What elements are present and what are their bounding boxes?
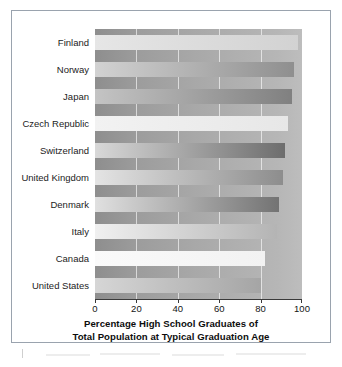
category-axis-labels: FinlandNorwayJapanCzech RepublicSwitzerl… (11, 29, 93, 299)
bar (95, 35, 298, 50)
bar (95, 251, 265, 266)
bar (95, 89, 292, 104)
scan-artifacts (0, 349, 342, 367)
bar (95, 197, 279, 212)
bar-row (95, 218, 302, 245)
tick-label-40: 40 (173, 303, 184, 314)
bar-chart-figure: FinlandNorwayJapanCzech RepublicSwitzerl… (0, 0, 342, 367)
scan-smudge (172, 354, 224, 356)
x-axis-title: Percentage High School Graduates ofTotal… (11, 318, 331, 343)
tick-label-60: 60 (214, 303, 225, 314)
category-label: Italy (72, 218, 89, 245)
scan-smudge (46, 354, 90, 356)
x-axis-title-line: Percentage High School Graduates of (11, 318, 331, 331)
bar (95, 170, 283, 185)
bar-row (95, 83, 302, 110)
category-label: Finland (58, 29, 89, 56)
category-label: United Kingdom (21, 164, 89, 191)
scan-smudge (236, 353, 306, 355)
category-label: Czech Republic (22, 110, 89, 137)
scan-tick (22, 349, 23, 358)
category-label: Denmark (50, 191, 89, 218)
bar-row (95, 164, 302, 191)
tick-label-0: 0 (92, 303, 97, 314)
x-axis-title-line: Total Population at Typical Graduation A… (11, 331, 331, 344)
bar-row (95, 245, 302, 272)
category-label: Japan (63, 83, 89, 110)
bar-row (95, 29, 302, 56)
bar (95, 62, 294, 77)
category-label: Norway (57, 56, 89, 83)
x-axis-tick-labels: 020406080100 (95, 303, 302, 317)
bar (95, 224, 277, 239)
tick-label-80: 80 (255, 303, 266, 314)
plot-area (95, 29, 302, 299)
bar-series (95, 29, 302, 299)
category-label: United States (32, 272, 89, 299)
bar (95, 278, 261, 293)
scan-smudge (100, 353, 160, 355)
bar (95, 143, 285, 158)
bar-row (95, 272, 302, 299)
bar (95, 116, 288, 131)
bar-row (95, 110, 302, 137)
bar-row (95, 56, 302, 83)
category-label: Switzerland (40, 137, 89, 164)
bar-row (95, 191, 302, 218)
tick-label-20: 20 (131, 303, 142, 314)
category-label: Canada (56, 245, 89, 272)
tick-label-100: 100 (294, 303, 310, 314)
bar-row (95, 137, 302, 164)
